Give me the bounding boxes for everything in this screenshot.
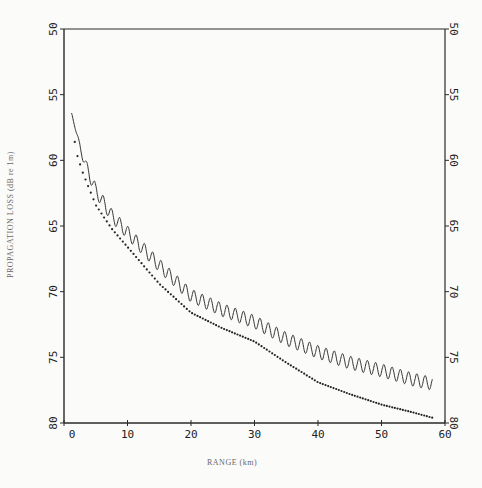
data-point [412, 412, 414, 414]
data-point [191, 312, 193, 314]
data-point [247, 338, 249, 340]
data-point [356, 396, 358, 398]
data-point [311, 378, 313, 380]
data-point [316, 381, 318, 383]
data-point [236, 333, 238, 335]
data-point [234, 332, 236, 334]
data-point [202, 317, 204, 319]
data-point [284, 361, 286, 363]
data-point [140, 262, 142, 264]
data-point [290, 364, 292, 366]
data-point [380, 404, 382, 406]
data-point [346, 392, 348, 394]
data-point [372, 401, 374, 403]
data-point [386, 405, 388, 407]
data-point [162, 286, 164, 288]
data-point [420, 414, 422, 416]
data-point [423, 414, 425, 416]
data-point [138, 259, 140, 261]
y-tick-label-left: 80 [47, 416, 60, 429]
data-point [223, 328, 225, 330]
x-tick-label: 50 [375, 428, 388, 441]
data-point [364, 398, 366, 400]
data-point [252, 340, 254, 342]
data-point [394, 407, 396, 409]
data-point [327, 385, 329, 387]
data-point [330, 386, 332, 388]
data-point [239, 335, 241, 337]
dotted-loss-curve [74, 141, 434, 419]
data-point [391, 406, 393, 408]
data-point [79, 163, 81, 165]
data-point [298, 369, 300, 371]
data-point [263, 347, 265, 349]
data-point [383, 404, 385, 406]
data-point [258, 343, 260, 345]
data-point [215, 324, 217, 326]
data-point [359, 397, 361, 399]
y-tick-label-right: 80 [447, 416, 460, 429]
data-point [271, 352, 273, 354]
data-point [228, 330, 230, 332]
y-tick-label-left: 50 [47, 22, 60, 35]
y-tick-label-right: 70 [447, 285, 460, 298]
data-point [130, 250, 132, 252]
data-point [418, 413, 420, 415]
data-point [340, 390, 342, 392]
y-axis-label: PROPAGATION LOSS (dB re 1m) [6, 151, 15, 278]
data-point [106, 220, 108, 222]
data-point [92, 198, 94, 200]
data-point [362, 397, 364, 399]
data-point [338, 389, 340, 391]
data-point [335, 388, 337, 390]
data-point [319, 382, 321, 384]
data-point [159, 284, 161, 286]
y-tick-label-right: 60 [447, 154, 460, 167]
x-tick-label: 60 [438, 428, 451, 441]
data-point [124, 244, 126, 246]
data-point [348, 393, 350, 395]
data-point [175, 298, 177, 300]
data-point [148, 271, 150, 273]
data-point [103, 216, 105, 218]
data-point [146, 268, 148, 270]
data-point [276, 356, 278, 358]
data-point [226, 329, 228, 331]
data-point [151, 274, 153, 276]
data-point [351, 394, 353, 396]
data-point [164, 288, 166, 290]
y-tick-label-right: 55 [447, 88, 460, 101]
data-point [95, 205, 97, 207]
data-point [287, 363, 289, 365]
data-point [282, 359, 284, 361]
y-tick-label-left: 55 [47, 88, 60, 101]
data-point [378, 403, 380, 405]
data-point [98, 208, 100, 210]
data-point [407, 410, 409, 412]
data-point [186, 308, 188, 310]
data-point [127, 247, 129, 249]
data-point [402, 409, 404, 411]
data-point [426, 415, 428, 417]
x-tick-label: 20 [184, 428, 197, 441]
data-point [74, 141, 76, 143]
data-point [204, 319, 206, 321]
data-point [231, 331, 233, 333]
x-tick-label: 40 [311, 428, 324, 441]
data-point [218, 325, 220, 327]
data-point [135, 256, 137, 258]
solid-loss-curve [72, 113, 433, 389]
data-point [84, 178, 86, 180]
data-point [343, 391, 345, 393]
propagation-loss-chart: 0102030405060505055556060656570707575808… [0, 0, 482, 488]
data-point [132, 253, 134, 255]
data-point [324, 384, 326, 386]
data-point [183, 305, 185, 307]
data-series [72, 113, 434, 419]
data-point [388, 406, 390, 408]
x-tick-label: 10 [121, 428, 134, 441]
data-point [295, 368, 297, 370]
data-point [399, 408, 401, 410]
data-point [431, 417, 433, 419]
data-point [156, 281, 158, 283]
